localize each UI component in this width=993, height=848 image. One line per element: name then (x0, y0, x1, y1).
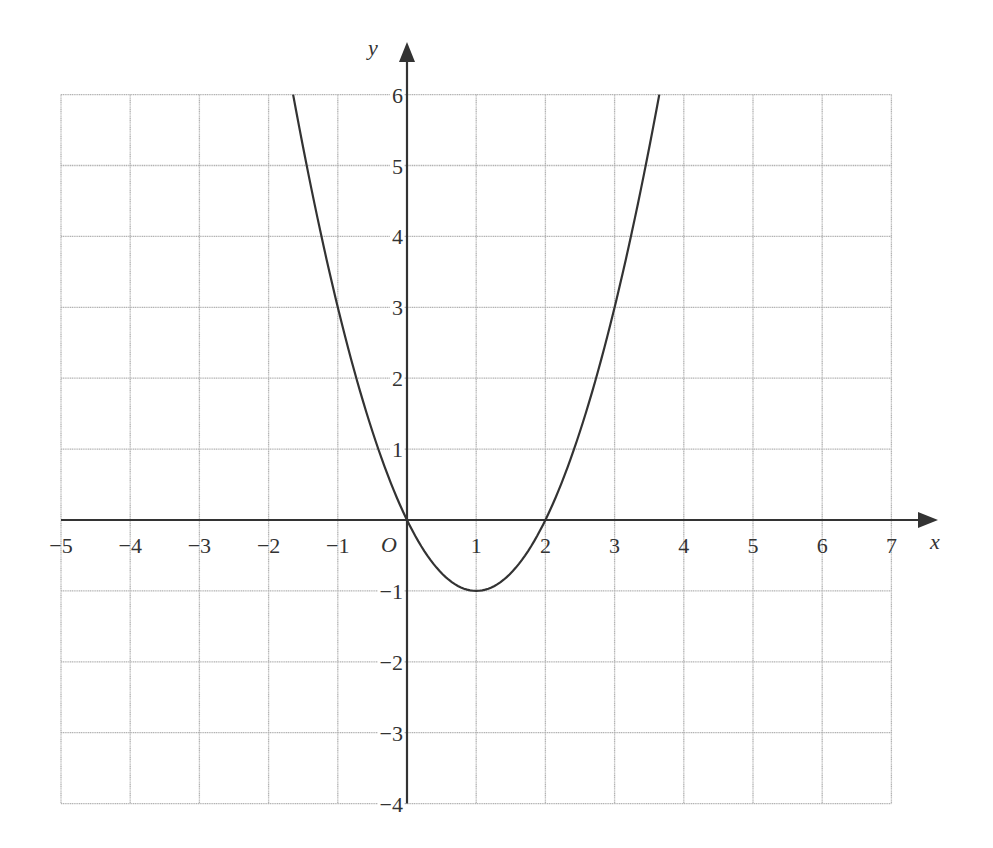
x-tick-label: 4 (678, 533, 689, 558)
x-tick-label: 7 (886, 533, 897, 558)
origin-label: O (381, 532, 397, 557)
x-axis-arrow-icon (918, 512, 938, 528)
y-tick-label: −2 (380, 650, 403, 675)
x-tick-label: 2 (540, 533, 551, 558)
x-tick-label: −4 (118, 533, 141, 558)
y-tick-label: 2 (392, 366, 403, 391)
y-tick-label: 6 (392, 83, 403, 108)
y-tick-label: −3 (380, 721, 403, 746)
x-tick-label: −3 (188, 533, 211, 558)
y-tick-label: 1 (392, 437, 403, 462)
y-tick-label: −1 (380, 579, 403, 604)
x-tick-label: 1 (471, 533, 482, 558)
x-axis-label: x (929, 529, 940, 554)
x-tick-label: −2 (257, 533, 280, 558)
x-tick-label: 6 (817, 533, 828, 558)
grid (61, 95, 891, 804)
y-tick-label: 3 (392, 295, 403, 320)
x-tick-label: 3 (609, 533, 620, 558)
y-axis-label: y (366, 35, 378, 60)
x-tick-label: 5 (748, 533, 759, 558)
y-tick-label: 4 (392, 224, 403, 249)
parabola-chart: −5−4−3−2−11234567654321−1−2−3−4 x y O (0, 0, 993, 848)
y-axis-arrow-icon (399, 42, 415, 62)
y-tick-label: −4 (380, 792, 403, 817)
axes (61, 42, 938, 804)
x-tick-label: −1 (326, 533, 349, 558)
y-tick-label: 5 (392, 154, 403, 179)
x-tick-label: −5 (49, 533, 72, 558)
